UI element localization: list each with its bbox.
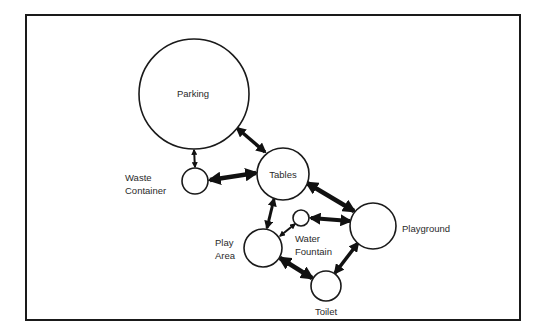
- label-playarea-line2: Area: [215, 250, 236, 261]
- label-waste-line1: Waste: [125, 172, 152, 183]
- label-tables: Tables: [269, 169, 297, 180]
- label-fountain-line2: Fountain: [295, 246, 332, 257]
- edge-parking-waste: [194, 150, 195, 167]
- label-toilet: Toilet: [315, 306, 338, 317]
- label-waste-line2: Container: [125, 185, 166, 196]
- label-playarea-line1: Play: [215, 237, 234, 248]
- node-playground: [350, 203, 396, 249]
- node-play-area: [244, 229, 282, 267]
- node-water-fountain: [293, 210, 309, 226]
- node-toilet: [311, 271, 341, 301]
- label-fountain-line1: Water: [295, 233, 320, 244]
- label-playground: Playground: [402, 223, 450, 234]
- adjacency-diagram: Parking Tables Waste Container Water Fou…: [0, 0, 542, 334]
- label-parking: Parking: [177, 88, 209, 99]
- node-waste-container: [182, 168, 208, 194]
